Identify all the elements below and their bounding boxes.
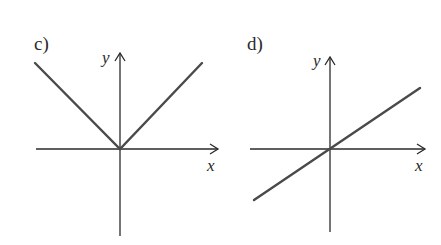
panel-c: c) y x <box>34 33 218 236</box>
panel-d-y-label: y <box>311 51 321 70</box>
panel-d-x-label: x <box>414 156 423 175</box>
panel-d: d) y x <box>247 33 425 232</box>
panel-c-x-label: x <box>206 156 215 175</box>
panel-c-y-label: y <box>100 48 110 67</box>
panel-d-linear-graph <box>254 88 420 200</box>
panel-c-label: c) <box>34 33 49 55</box>
panel-d-label: d) <box>247 33 263 55</box>
graphs-figure: c) y x d) y x <box>0 0 441 245</box>
panel-c-abs-value-graph <box>35 63 202 149</box>
